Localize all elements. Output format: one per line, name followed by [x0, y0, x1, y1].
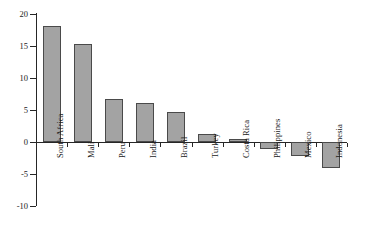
y-axis-tick-label: -10: [0, 202, 28, 211]
x-axis-tick: [347, 143, 348, 147]
x-axis-category-label: Brazil: [180, 137, 189, 158]
y-axis-tick-label: 20: [0, 10, 28, 19]
x-axis-category-label: Peru: [118, 142, 127, 158]
bar-chart: 20151050-5-10 South AfricaMaliPeruIndiaB…: [0, 0, 383, 232]
x-axis-category-label: Philippines: [273, 119, 282, 158]
y-axis-tick: [30, 110, 36, 111]
x-axis-category-label: India: [149, 140, 158, 158]
x-axis-category-label: Mexico: [304, 131, 313, 158]
x-axis-tick: [285, 143, 286, 147]
bar: [105, 99, 123, 142]
y-axis-tick-label: -5: [0, 170, 28, 179]
x-axis-tick: [254, 143, 255, 147]
x-axis-tick: [67, 143, 68, 147]
y-axis-tick-label: 5: [0, 106, 28, 115]
x-axis-tick: [223, 143, 224, 147]
y-axis-line: [36, 13, 37, 206]
x-axis-category-label: Mali: [87, 142, 96, 158]
x-axis-tick: [160, 143, 161, 147]
x-axis-category-label: Indonesia: [335, 124, 344, 158]
x-axis-tick: [98, 143, 99, 147]
y-axis-tick: [30, 142, 36, 143]
x-axis-tick: [129, 143, 130, 147]
x-axis-category-label: Costa Rica: [242, 120, 251, 158]
y-axis-tick: [30, 46, 36, 47]
y-axis-tick: [30, 174, 36, 175]
x-axis-category-label: South Africa: [56, 114, 65, 158]
y-axis-tick: [30, 14, 36, 15]
bar: [74, 44, 92, 142]
y-axis-tick-label: 15: [0, 42, 28, 51]
x-axis-tick: [192, 143, 193, 147]
y-axis-tick-label: 10: [0, 74, 28, 83]
y-axis-tick: [30, 78, 36, 79]
bar: [136, 103, 154, 142]
x-axis-category-label: Turkey: [211, 133, 220, 158]
y-axis-tick-label: 0: [0, 138, 28, 147]
y-axis-tick: [30, 206, 36, 207]
x-axis-tick: [316, 143, 317, 147]
